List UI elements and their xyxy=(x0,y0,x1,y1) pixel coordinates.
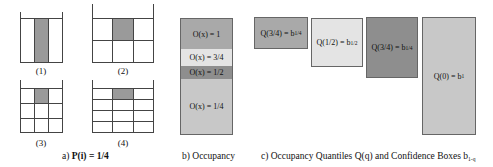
box-sub: 1 xyxy=(461,73,464,79)
grid-cell xyxy=(21,119,35,132)
grid-post xyxy=(153,80,154,88)
grid-post xyxy=(92,80,93,88)
grid-label: (1) xyxy=(26,66,56,76)
grid-cell xyxy=(134,41,153,62)
grid-cell xyxy=(134,19,153,40)
grid-post xyxy=(20,80,21,88)
box-sub: 1/4 xyxy=(405,45,412,51)
quantile-box-q0: Q(0) = b1 xyxy=(422,17,476,135)
grid-4 xyxy=(92,88,154,133)
grid-cell xyxy=(93,111,113,121)
box-label: Q(3/4) = b xyxy=(372,43,406,52)
caption-text: c) Occupancy Quantiles Q(q) and Confiden… xyxy=(261,151,468,161)
quantile-box-q3-4: Q(3/4) = b1/4 xyxy=(254,17,308,49)
grid-cell xyxy=(49,89,62,103)
box-label: Q(1/2) = b xyxy=(317,38,351,47)
grid-post xyxy=(92,4,93,18)
grid-cell xyxy=(113,111,133,121)
grid-cell xyxy=(21,104,35,118)
grid-cell xyxy=(93,100,113,110)
grid-cell xyxy=(134,111,153,121)
grid-cell xyxy=(49,19,62,62)
occupancy-segment-1-2: O(x) = 1/2 xyxy=(181,66,232,79)
grid-3 xyxy=(20,88,63,133)
quantile-box-q3-4-dark: Q(3/4) = b1/4 xyxy=(366,17,418,78)
box-label: Q(3/4) = b xyxy=(261,29,295,38)
grid-2 xyxy=(92,18,154,63)
occupancy-segment-1: O(x) = 1 xyxy=(181,19,232,49)
occupancy-column: O(x) = 1 O(x) = 3/4 O(x) = 1/2 O(x) = 1/… xyxy=(180,18,233,135)
grid-post xyxy=(153,4,154,18)
grid-cell xyxy=(113,41,133,62)
occupancy-segment-1-4: O(x) = 1/4 xyxy=(181,79,232,134)
panel-a-caption: a) P(i) = 1/4 xyxy=(62,151,109,161)
grid-cell xyxy=(93,89,113,99)
grid-cell xyxy=(49,104,62,118)
grid-cell xyxy=(93,122,113,132)
box-label: Q(0) = b xyxy=(434,72,462,81)
grid-cell xyxy=(134,100,153,110)
grid-cell-highlighted xyxy=(113,89,133,99)
caption-sub: 1-q xyxy=(468,156,475,162)
grid-cell xyxy=(134,122,153,132)
grid-label: (3) xyxy=(26,138,56,148)
panel-c-caption: c) Occupancy Quantiles Q(q) and Confiden… xyxy=(261,151,475,162)
box-sub: 1/4 xyxy=(294,30,301,36)
grid-cell xyxy=(21,19,35,62)
occupancy-segment-3-4: O(x) = 3/4 xyxy=(181,49,232,66)
grid-cell xyxy=(93,41,113,62)
grid-cell xyxy=(134,89,153,99)
grid-cell xyxy=(113,100,133,110)
grid-cell-highlighted xyxy=(35,89,49,103)
box-sub: 1/2 xyxy=(350,40,357,46)
grid-post xyxy=(62,80,63,88)
panel-b-caption: b) Occupancy xyxy=(182,151,235,161)
grid-cell xyxy=(113,122,133,132)
grid-cell-highlighted xyxy=(113,19,133,40)
grid-label: (4) xyxy=(108,138,138,148)
grid-cell xyxy=(49,119,62,132)
grid-cell xyxy=(35,104,49,118)
caption-prefix: a) xyxy=(62,151,72,161)
quantile-box-q1-2: Q(1/2) = b1/2 xyxy=(311,18,363,67)
grid-cell-highlighted xyxy=(35,19,49,62)
grid-cell xyxy=(35,119,49,132)
grid-cell xyxy=(93,19,113,40)
grid-label: (2) xyxy=(108,66,138,76)
grid-1 xyxy=(20,18,63,63)
grid-cell xyxy=(21,89,35,103)
caption-formula: P(i) = 1/4 xyxy=(72,151,109,161)
